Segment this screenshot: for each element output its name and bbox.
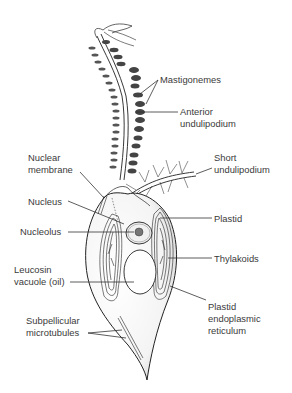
anterior-undulipodium <box>89 24 146 180</box>
label-plastid-er: Plastid endoplasmic reticulum <box>208 301 263 336</box>
nucleus <box>126 222 152 244</box>
label-nucleolus: Nucleolus <box>20 226 61 237</box>
label-nucleus: Nucleus <box>28 196 62 207</box>
leucosin-vacuole <box>124 250 156 294</box>
cell-diagram: Mastigonemes Anterior undulipodium Short… <box>0 0 292 393</box>
cell-body <box>86 186 177 380</box>
label-plastid: Plastid <box>214 213 242 224</box>
label-thylakoids: Thylakoids <box>214 253 259 264</box>
label-short-undulipodium: Short undulipodium <box>214 152 270 175</box>
label-nuclear-membrane: Nuclear membrane <box>28 152 73 175</box>
label-mastigonemes: Mastigonemes <box>160 74 221 85</box>
label-anterior-undulipodium: Anterior undulipodium <box>180 106 236 129</box>
label-leucosin-vacuole: Leucosin vacuole (oil) <box>14 264 65 287</box>
label-subpellicular-microtubules: Subpellicular microtubules <box>26 315 82 338</box>
nucleolus <box>135 228 143 236</box>
